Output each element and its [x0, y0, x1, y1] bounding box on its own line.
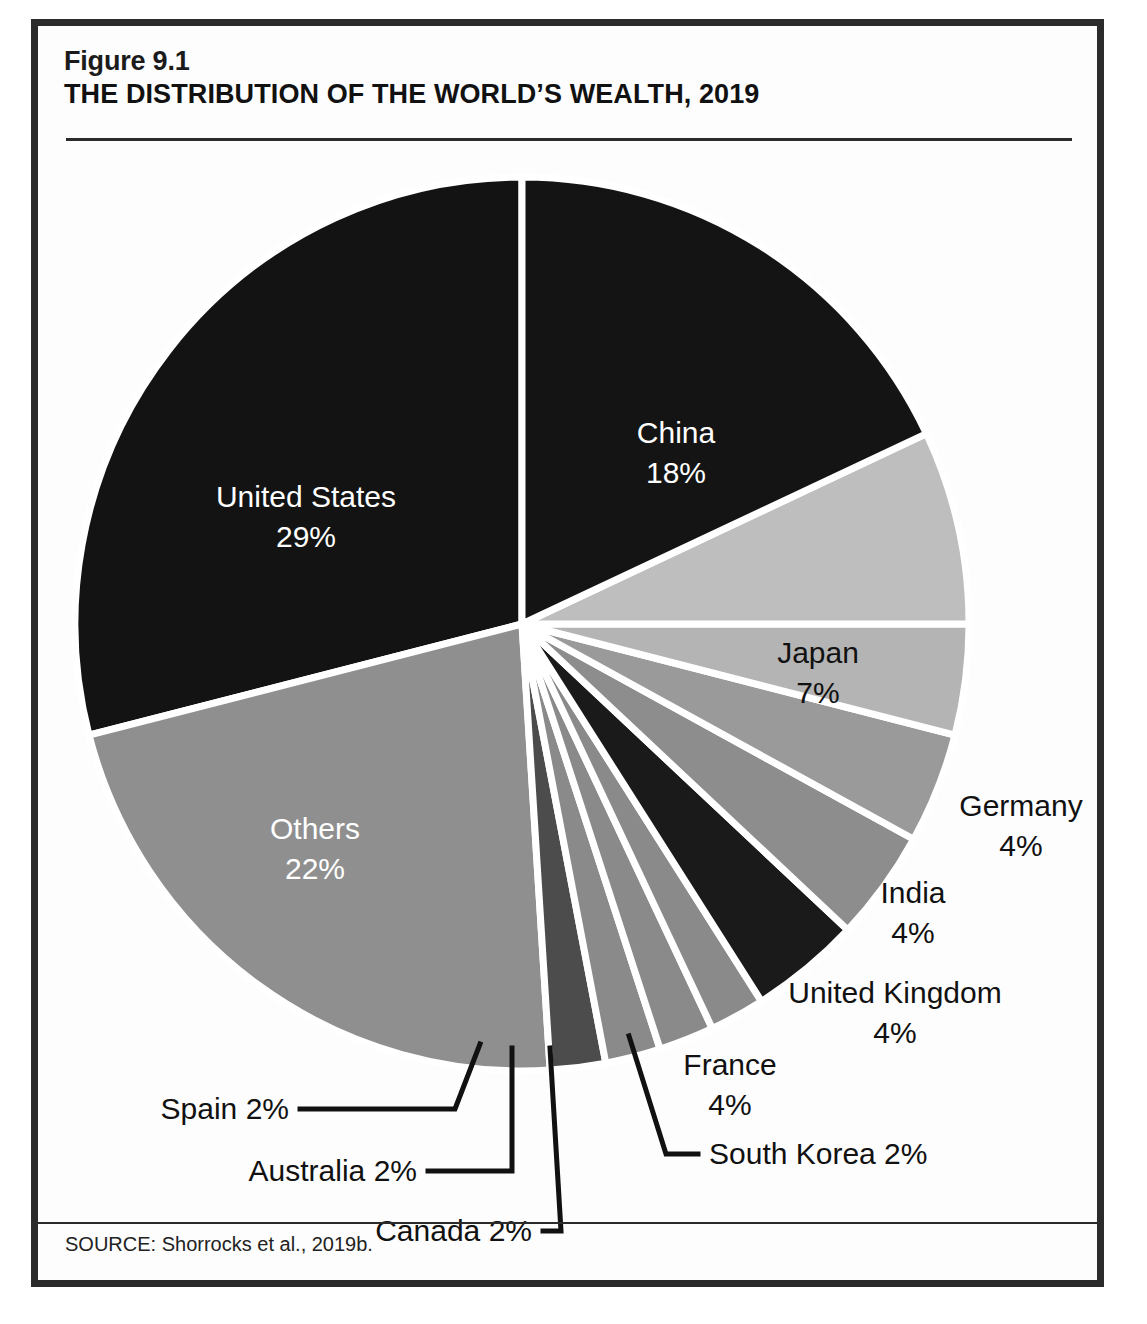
- pie-label-japan-value: 7%: [796, 676, 839, 709]
- pie-label-australia: Australia 2%: [249, 1154, 417, 1187]
- pie-label-spain: Spain 2%: [161, 1092, 289, 1125]
- pie-label-canada: Canada 2%: [375, 1214, 532, 1247]
- pie-label-france-value: 4%: [708, 1088, 751, 1121]
- pie-label-japan-name: Japan: [777, 636, 859, 669]
- pie-label-united-kingdom-name: United Kingdom: [788, 976, 1001, 1009]
- pie-label-china-name: China: [637, 416, 716, 449]
- pie-label-india-value: 4%: [891, 916, 934, 949]
- pie-slices: [75, 177, 969, 1071]
- pie-chart: United States 29% China 18% Others 22% J…: [38, 26, 1111, 1294]
- source-divider: [38, 1222, 1097, 1224]
- pie-label-germany-value: 4%: [999, 829, 1042, 862]
- pie-label-united-states-name: United States: [216, 480, 396, 513]
- pie-label-france-name: France: [683, 1048, 776, 1081]
- pie-label-others-name: Others: [270, 812, 360, 845]
- pie-label-india-name: India: [880, 876, 945, 909]
- pie-label-south-korea: South Korea 2%: [709, 1137, 927, 1170]
- pie-label-germany-name: Germany: [959, 789, 1082, 822]
- pie-label-others-value: 22%: [285, 852, 345, 885]
- pie-label-united-states-value: 29%: [276, 520, 336, 553]
- pie-chart-svg: United States 29% China 18% Others 22% J…: [38, 26, 1111, 1294]
- figure-frame: Figure 9.1 THE DISTRIBUTION OF THE WORLD…: [31, 19, 1104, 1287]
- source-note: SOURCE: Shorrocks et al., 2019b.: [65, 1233, 373, 1256]
- pie-label-united-kingdom-value: 4%: [873, 1016, 916, 1049]
- callout-line-canada: [543, 1048, 561, 1231]
- pie-label-china-value: 18%: [646, 456, 706, 489]
